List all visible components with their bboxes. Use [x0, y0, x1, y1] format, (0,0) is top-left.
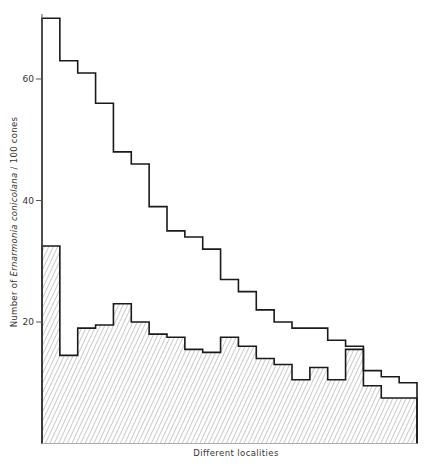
y-axis-label: Number of Ernarmonia conicolana / 100 co… — [9, 117, 19, 328]
step-histogram-chart: 204060 — [0, 0, 430, 472]
y-axis: 204060 — [23, 14, 42, 444]
hatched-area — [42, 246, 417, 443]
y-tick-label: 20 — [23, 317, 35, 327]
hatched-region — [42, 246, 417, 443]
y-tick-label: 40 — [23, 196, 35, 206]
x-axis-label: Different localities — [193, 448, 279, 458]
y-tick-label: 60 — [23, 74, 35, 84]
